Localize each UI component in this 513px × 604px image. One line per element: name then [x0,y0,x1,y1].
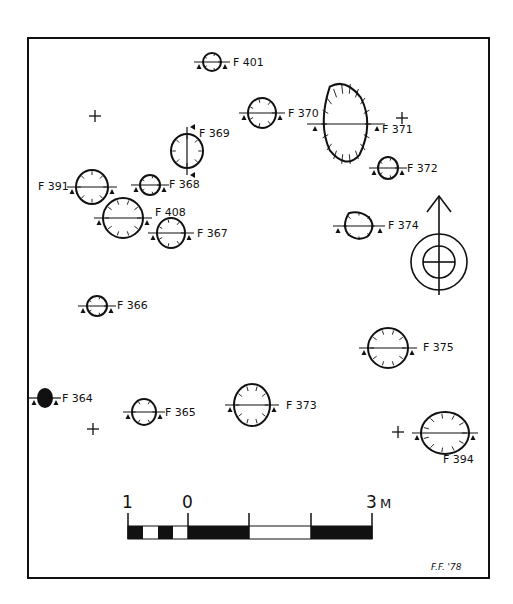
grid-cross-icon [89,110,101,122]
feature-f394: F 394 [412,412,478,466]
feature-label: F 371 [382,123,413,136]
north-arrow-icon [411,196,467,295]
feature-label: F 370 [288,107,319,120]
feature-label: F 391 [38,180,69,193]
feature-label: F 394 [443,453,474,466]
grid-cross-icon [392,426,404,438]
feature-label: F 367 [197,227,228,240]
grid-cross-icon [87,423,99,435]
feature-label: F 369 [199,127,230,140]
feature-f367: F 367 [148,218,228,248]
feature-f372: F 372 [369,157,438,179]
drawing-frame [28,38,489,578]
site-plan: F 401F 370F 371F 369F 372F 391F 368F 408… [0,0,513,604]
feature-label: F 373 [286,399,317,412]
feature-f368: F 368 [131,175,200,195]
scale-bar: 1 0 3 M [122,492,391,539]
scale-label-0: 0 [182,492,193,512]
scale-label-3: 3 [366,492,377,512]
feature-f373: F 373 [225,384,317,426]
feature-f391: F 391 [38,170,117,204]
feature-f371: F 371 [307,84,413,164]
feature-f370: F 370 [239,98,319,128]
feature-label: F 364 [62,392,93,405]
feature-f364: F 364 [29,389,93,407]
feature-label: F 365 [165,406,196,419]
feature-label: F 401 [233,56,264,69]
scale-unit: M [380,496,391,511]
feature-f375: F 375 [359,328,454,368]
feature-f374: F 374 [333,212,419,240]
feature-label: F 366 [117,299,148,312]
feature-label: F 374 [388,219,419,232]
feature-f365: F 365 [123,399,196,425]
signature: F.F. '78 [431,562,462,572]
feature-label: F 368 [169,178,200,191]
feature-f401: F 401 [194,53,264,71]
feature-label: F 375 [423,341,454,354]
feature-f369: F 369 [171,124,230,178]
scale-label-1: 1 [122,492,133,512]
feature-label: F 372 [407,162,438,175]
feature-f366: F 366 [78,296,148,316]
